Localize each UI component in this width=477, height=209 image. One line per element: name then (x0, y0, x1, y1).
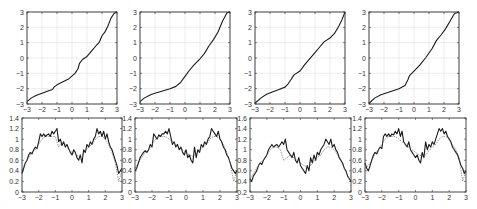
x-tick-label: 3 (228, 106, 232, 113)
figure-canvas: −3−2−10123−3−2−10123−3−2−10123−3−2−10123… (0, 0, 477, 209)
y-tick-label: 1.4 (9, 115, 19, 122)
panel-top-1: −3−2−10123−3−2−10123 (16, 9, 119, 114)
y-tick-label: 2 (133, 24, 137, 31)
y-tick-label: 1.2 (237, 136, 247, 143)
x-tick-label: −3 (251, 106, 259, 113)
axes-frame (135, 118, 237, 192)
x-tick-label: −1 (395, 194, 403, 201)
x-tick-label: 2 (328, 106, 332, 113)
x-tick-label: 0 (70, 106, 74, 113)
x-tick-label: 3 (343, 106, 347, 113)
grid-lines (369, 12, 459, 104)
x-tick-label: 3 (457, 106, 461, 113)
y-tick-label: 0.8 (9, 146, 19, 153)
x-tick-label: 1 (430, 194, 434, 201)
y-tick-label: 0 (15, 189, 19, 196)
series-reference-line (22, 137, 122, 182)
y-tick-label: −1 (129, 70, 137, 77)
y-tick-label: 3 (248, 9, 252, 16)
y-tick-label: 3 (362, 9, 366, 16)
panel-top-3: −3−2−10123−3−2−10123 (244, 9, 347, 114)
y-tick-label: 1.4 (122, 115, 132, 122)
y-tick-label: 0.2 (122, 178, 132, 185)
x-tick-label: 2 (103, 194, 107, 201)
y-tick-label: 0 (20, 55, 24, 62)
y-tick-label: 0.8 (122, 146, 132, 153)
y-tick-label: 0 (128, 189, 132, 196)
y-tick-label: 0.2 (9, 178, 19, 185)
x-tick-label: 1 (427, 106, 431, 113)
x-tick-label: −1 (281, 106, 289, 113)
x-tick-label: −3 (23, 106, 31, 113)
x-tick-label: −2 (38, 106, 46, 113)
x-tick-label: 3 (349, 194, 353, 201)
x-tick-label: −1 (51, 194, 59, 201)
y-tick-label: 1.2 (122, 125, 132, 132)
x-tick-label: 0 (412, 106, 416, 113)
y-tick-label: 3 (133, 9, 137, 16)
x-tick-label: 2 (442, 106, 446, 113)
x-tick-label: 3 (115, 106, 119, 113)
panel-bottom-3: −3−2−101230.20.40.60.811.21.41.6 (237, 115, 353, 202)
panel-top-2: −3−2−10123−3−2−10123 (129, 9, 232, 114)
y-tick-label: 0.6 (352, 157, 362, 164)
x-tick-label: 3 (120, 194, 124, 201)
y-tick-label: 1 (243, 146, 247, 153)
y-tick-label: −2 (129, 85, 137, 92)
grid-lines (140, 12, 230, 104)
y-tick-label: 3 (20, 9, 24, 16)
panel-top-4: −3−2−10123−3−2−10123 (358, 9, 461, 114)
x-tick-label: −2 (35, 194, 43, 201)
x-tick-label: −3 (18, 194, 26, 201)
x-tick-label: 0 (70, 194, 74, 201)
y-tick-label: 2 (248, 24, 252, 31)
x-tick-label: 0 (299, 194, 303, 201)
x-tick-label: −1 (166, 106, 174, 113)
y-tick-label: −2 (16, 85, 24, 92)
y-tick-label: 1.2 (352, 125, 362, 132)
x-tick-label: 3 (464, 194, 468, 201)
x-tick-label: 1 (85, 106, 89, 113)
y-tick-label: 0 (133, 55, 137, 62)
series-noisy-line (22, 129, 122, 174)
y-tick-label: 1 (20, 39, 24, 46)
y-tick-label: 1.2 (9, 125, 19, 132)
x-tick-label: 2 (100, 106, 104, 113)
y-tick-label: 1.4 (352, 115, 362, 122)
y-tick-label: 0.4 (122, 167, 132, 174)
y-tick-label: 0.4 (352, 167, 362, 174)
x-tick-label: 1 (87, 194, 91, 201)
x-tick-label: 0 (183, 106, 187, 113)
x-tick-label: −1 (395, 106, 403, 113)
y-tick-label: 0.4 (9, 167, 19, 174)
y-tick-label: −1 (358, 70, 366, 77)
y-tick-label: 1 (362, 39, 366, 46)
x-tick-label: −3 (246, 194, 254, 201)
x-tick-label: −2 (151, 106, 159, 113)
y-tick-label: 1 (128, 136, 132, 143)
y-tick-label: 1 (15, 136, 19, 143)
y-tick-label: 0.6 (122, 157, 132, 164)
axes-frame (365, 118, 466, 192)
y-tick-label: −3 (16, 101, 24, 108)
y-tick-label: 1.6 (237, 115, 247, 122)
y-tick-label: −3 (244, 101, 252, 108)
x-tick-label: 1 (201, 194, 205, 201)
y-tick-label: −2 (244, 85, 252, 92)
x-tick-label: −3 (136, 106, 144, 113)
x-tick-label: 1 (198, 106, 202, 113)
grid-lines (255, 12, 345, 104)
x-tick-label: −3 (361, 194, 369, 201)
y-tick-label: −1 (16, 70, 24, 77)
y-tick-label: 0 (248, 55, 252, 62)
x-tick-label: −2 (263, 194, 271, 201)
y-tick-label: 1 (133, 39, 137, 46)
y-tick-label: 1 (358, 136, 362, 143)
series-noisy-line (365, 129, 466, 174)
y-tick-label: 0 (358, 189, 362, 196)
x-tick-label: −1 (280, 194, 288, 201)
x-tick-label: −2 (380, 106, 388, 113)
x-tick-label: 1 (313, 106, 317, 113)
x-tick-label: −1 (165, 194, 173, 201)
x-tick-label: 2 (332, 194, 336, 201)
